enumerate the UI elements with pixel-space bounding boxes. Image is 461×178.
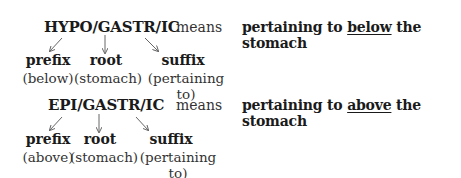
part-prefix: prefix [20, 131, 76, 147]
part-prefix-meaning: (below) [18, 70, 78, 86]
part-root-meaning: (stomach) [70, 149, 132, 165]
part-suffix: suffix [138, 52, 228, 68]
arrow-suffix-icon [145, 38, 158, 51]
entry-hypogastric: HYPO/GASTR/IC means pertaining to below … [0, 0, 461, 89]
part-root-meaning: (stomach) [74, 70, 136, 86]
part-prefix-meaning: (above) [18, 149, 78, 165]
entry-epigastric: EPI/GASTR/IC means pertaining to above t… [0, 89, 461, 178]
part-suffix: suffix [126, 131, 216, 147]
arrow-prefix-icon [50, 38, 62, 51]
part-root: root [74, 131, 126, 147]
arrow-prefix-icon [50, 117, 62, 130]
part-suffix-meaning: (pertaining to) [130, 149, 226, 178]
arrow-suffix-icon [136, 117, 148, 130]
part-root: root [80, 52, 132, 68]
part-prefix: prefix [20, 52, 76, 68]
